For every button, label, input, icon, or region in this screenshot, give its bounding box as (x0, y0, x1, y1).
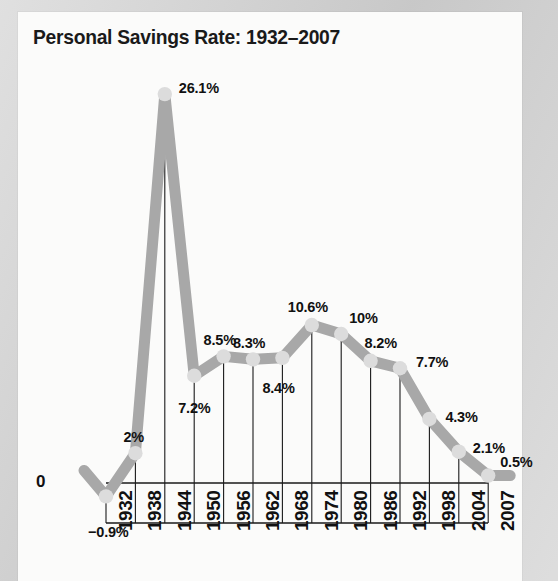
x-tick-label-1944: 1944 (174, 491, 196, 531)
data-label-1962: 8.3% (233, 335, 265, 351)
data-label-1938: 2% (123, 429, 144, 445)
data-point-marker (187, 369, 201, 383)
x-tick-label-1992: 1992 (409, 491, 431, 531)
data-point-marker (99, 489, 113, 503)
data-point-marker (422, 412, 436, 426)
x-tick-label-1986: 1986 (380, 491, 402, 531)
data-point-marker (246, 352, 260, 366)
data-label-1974: 10.6% (288, 299, 328, 315)
x-tick-label-1956: 1956 (233, 491, 255, 531)
data-label-1968: 8.4% (262, 380, 294, 396)
zero-axis-label: 0 (36, 472, 45, 492)
data-label-1944: 26.1% (179, 80, 219, 96)
data-label-1986: 8.2% (365, 335, 397, 351)
data-line (84, 94, 510, 496)
data-label-1980: 10% (349, 310, 377, 326)
data-point-marker (216, 349, 230, 363)
x-tick-label-1968: 1968 (291, 491, 313, 531)
data-point-marker (393, 361, 407, 375)
chart-panel: Personal Savings Rate: 1932–2007 0 19321… (18, 12, 522, 581)
x-tick-label-1998: 1998 (438, 491, 460, 531)
x-tick-label-1980: 1980 (350, 491, 372, 531)
x-tick-label-1950: 1950 (203, 491, 225, 531)
data-point-marker (363, 354, 377, 368)
x-tick-label-1974: 1974 (321, 491, 343, 531)
data-label-1998: 4.3% (445, 409, 477, 425)
x-tick-label-1962: 1962 (262, 491, 284, 531)
x-tick-label-1938: 1938 (144, 491, 166, 531)
data-label-1932: −0.9% (88, 524, 129, 540)
x-tick-label-2004: 2004 (468, 491, 490, 531)
x-tick-label-2007: 2007 (497, 491, 519, 531)
data-point-marker (452, 445, 466, 459)
data-label-1956: 8.5% (204, 332, 236, 348)
data-label-1992: 7.7% (416, 354, 448, 370)
data-point-marker (334, 327, 348, 341)
data-label-1950: 7.2% (178, 400, 210, 416)
data-point-marker (158, 87, 172, 101)
data-point-marker (481, 468, 495, 482)
data-point-marker (305, 318, 319, 332)
data-point-marker (275, 351, 289, 365)
data-label-2007: 0.5% (500, 454, 532, 470)
data-point-marker (128, 446, 142, 460)
